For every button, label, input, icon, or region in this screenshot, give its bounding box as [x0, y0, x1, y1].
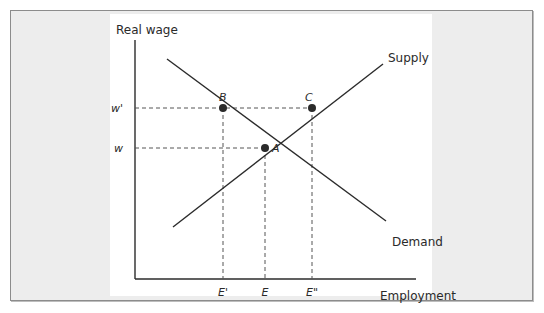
e-tick-label: E	[262, 286, 269, 299]
point-c-label: C	[305, 91, 313, 104]
x-axis-label: Employment	[380, 289, 456, 303]
demand-label: Demand	[392, 235, 443, 249]
point-b-marker	[219, 104, 227, 112]
supply-label: Supply	[388, 51, 429, 65]
e-prime-tick-label: E'	[218, 286, 228, 299]
y-axis-label: Real wage	[116, 23, 178, 37]
labour-market-diagram: Real wage Employment Supply Demand w' w …	[0, 0, 544, 313]
plot-area	[110, 14, 432, 296]
w-tick-label: w	[114, 142, 123, 155]
point-a-label: A	[271, 142, 280, 155]
w-prime-tick-label: w'	[111, 102, 123, 115]
point-c-marker	[308, 104, 316, 112]
point-b-label: B	[219, 91, 227, 104]
e-double-prime-tick-label: E"	[306, 286, 318, 299]
point-a-marker	[261, 144, 269, 152]
